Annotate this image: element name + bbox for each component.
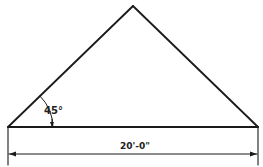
angle-label: 45°: [44, 105, 63, 116]
left-arrowhead-icon: [9, 152, 16, 157]
left-rafter: [8, 6, 133, 127]
roof-triangle-diagram: 45° 20'-0": [0, 0, 263, 167]
right-arrowhead-icon: [250, 152, 257, 157]
span-dimension-label: 20'-0": [120, 141, 150, 151]
right-rafter: [133, 6, 258, 127]
